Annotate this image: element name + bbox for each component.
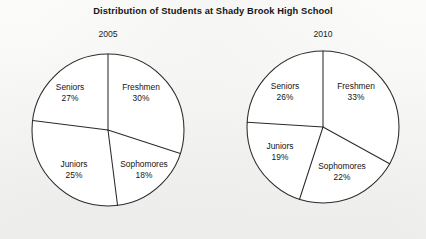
pie-svg-2005 (8, 0, 208, 239)
pie-slice-label-2005-freshmen: Freshmen 30% (122, 82, 160, 104)
slice-name: Freshmen (122, 82, 160, 92)
pie-slice-label-2010-seniors: Seniors 26% (271, 81, 299, 103)
pie-slice-label-2005-sophomores: Sophomores 18% (120, 159, 168, 181)
slice-value: 25% (61, 170, 88, 181)
slice-name: Juniors (267, 141, 294, 151)
slice-name: Seniors (56, 82, 84, 92)
slice-name: Sophomores (318, 161, 366, 171)
slice-value: 33% (337, 92, 375, 103)
pie-chart-figure: Distribution of Students at Shady Brook … (0, 0, 426, 239)
pie-slice-label-2010-juniors: Juniors 19% (267, 141, 294, 163)
slice-value: 19% (267, 152, 294, 163)
pie-svg-2010 (223, 0, 423, 239)
slice-name: Seniors (271, 81, 299, 91)
slice-name: Freshmen (337, 81, 375, 91)
pie-slice-label-2005-seniors: Seniors 27% (56, 82, 84, 104)
pie-slice-label-2005-juniors: Juniors 25% (61, 159, 88, 181)
slice-value: 22% (318, 172, 366, 183)
pie-slice-label-2010-sophomores: Sophomores 22% (318, 161, 366, 183)
slice-value: 18% (120, 170, 168, 181)
slice-name: Juniors (61, 159, 88, 169)
pie-slice-label-2010-freshmen: Freshmen 33% (337, 81, 375, 103)
pie-chart-2010: 2010 Freshmen 33% Sophomores 22% Juniors… (223, 0, 423, 239)
slice-value: 30% (122, 93, 160, 104)
slice-name: Sophomores (120, 159, 168, 169)
slice-value: 27% (56, 93, 84, 104)
slice-value: 26% (271, 92, 299, 103)
pie-chart-2005: 2005 Freshmen 30% Sophomores 18% Juniors… (8, 0, 208, 239)
